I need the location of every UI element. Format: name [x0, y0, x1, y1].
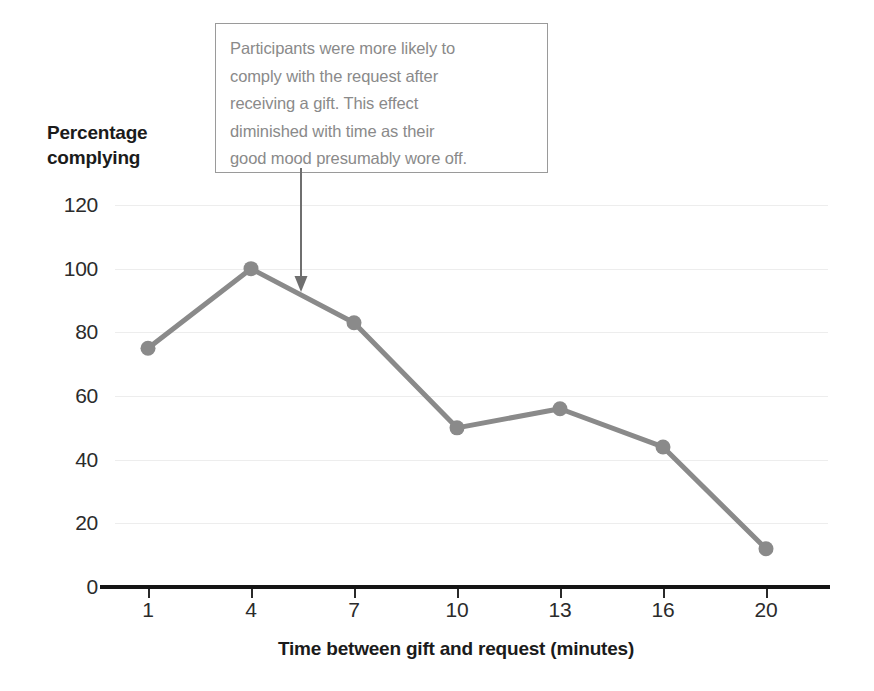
data-point-marker [553, 401, 568, 416]
x-axis-tick [560, 589, 562, 598]
x-axis-tick [251, 589, 253, 598]
gridline [115, 332, 828, 333]
x-axis-tick [663, 589, 665, 598]
x-axis-tick [354, 589, 356, 598]
data-point-marker [141, 341, 156, 356]
data-point-marker [656, 439, 671, 454]
series-line [148, 269, 766, 549]
data-point-marker [450, 420, 465, 435]
annotation-arrow-icon [270, 168, 340, 298]
x-axis-tick-label: 4 [221, 598, 281, 622]
y-axis-tick-label: 40 [42, 448, 98, 472]
y-axis-tick-label: 0 [42, 575, 98, 599]
x-axis-title: Time between gift and request (minutes) [0, 638, 874, 660]
data-point-marker [347, 315, 362, 330]
x-axis-tick-label: 1 [118, 598, 178, 622]
y-axis-tick-label: 100 [42, 257, 98, 281]
line-chart-figure: Percentage complying 020406080100120 147… [0, 0, 874, 691]
gridline [115, 205, 828, 206]
gridline [115, 523, 828, 524]
x-axis-tick [148, 589, 150, 598]
x-axis-tick-label: 7 [324, 598, 384, 622]
y-axis-tick-label: 80 [42, 320, 98, 344]
y-axis-tick-labels: 020406080100120 [42, 0, 98, 691]
x-axis-tick-label: 16 [633, 598, 693, 622]
y-axis-tick-label: 60 [42, 384, 98, 408]
annotation-callout-box: Participants were more likely to comply … [215, 23, 548, 173]
x-axis-tick-label: 13 [530, 598, 590, 622]
data-point-marker [759, 541, 774, 556]
series-markers [141, 261, 774, 556]
y-axis-tick-label: 20 [42, 511, 98, 535]
gridline [115, 396, 828, 397]
x-axis-tick-label: 20 [736, 598, 796, 622]
x-axis-tick [457, 589, 459, 598]
x-axis-tick-label: 10 [427, 598, 487, 622]
x-axis-tick [766, 589, 768, 598]
x-axis-line [100, 585, 830, 589]
gridline [115, 269, 828, 270]
annotation-text: Participants were more likely to comply … [230, 35, 533, 173]
y-axis-tick-label: 120 [42, 193, 98, 217]
gridline [115, 460, 828, 461]
